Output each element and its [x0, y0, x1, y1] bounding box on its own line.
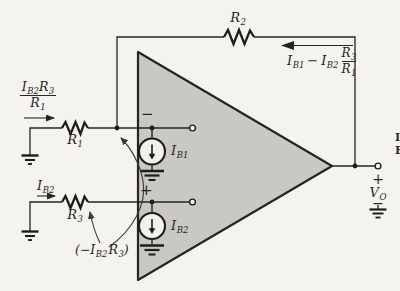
circuit-canvas [0, 0, 400, 291]
terminal-output [375, 163, 381, 169]
bias-current-opamp-figure: IB2R3 R1 R1 IB2 R3 (−IB2R3) − + IB1 IB2 … [0, 0, 400, 291]
fraction-denominator: R1 [342, 63, 357, 75]
minus-operator: − [307, 54, 318, 68]
node-ib1-tap [150, 126, 155, 131]
fraction-numerator: IB2R3 [22, 81, 54, 94]
input-fraction-label: IB2R3 R1 [20, 81, 56, 110]
terminal-noninverting [190, 199, 196, 205]
resistor-r3-label: R3 [63, 208, 87, 222]
noninverting-input-wire-left [30, 202, 62, 231]
term-ib2: IB2 [321, 54, 338, 68]
opamp-triangle [138, 52, 332, 280]
terminal-inverting [190, 125, 196, 131]
node-output [353, 164, 358, 169]
output-minus-sign: − [371, 196, 385, 211]
fraction-numerator: R3 [342, 47, 357, 59]
fraction-denominator: R1 [30, 97, 45, 110]
node-feedback-inverting [115, 126, 120, 131]
edge-text-fragment-top: I [395, 131, 400, 144]
source-ib1-label: IB1 [171, 144, 188, 158]
feedback-current-label: IB1 − IB2 R3 R1 [287, 47, 356, 75]
offset-annotation-arrow-short [90, 212, 100, 243]
inverting-input-wire-left [30, 128, 62, 155]
edge-text-fragment-bottom: E [395, 144, 400, 157]
offset-voltage-label: (−IB2R3) [75, 243, 129, 256]
inverting-input-sign: − [141, 107, 154, 123]
source-ib2-label: IB2 [171, 219, 188, 233]
fraction-r3-r1: R3 R1 [342, 47, 357, 75]
ground-r1 [22, 156, 39, 165]
resistor-r2 [224, 30, 254, 44]
term-ib1: IB1 [287, 54, 304, 68]
node-ib2-tap [150, 200, 155, 205]
input-current-ib2-label: IB2 [37, 179, 54, 193]
resistor-r1-label: R1 [63, 133, 87, 147]
resistor-r2-label: R2 [226, 11, 250, 25]
ground-r3 [22, 232, 39, 241]
noninverting-input-sign: + [140, 183, 153, 199]
